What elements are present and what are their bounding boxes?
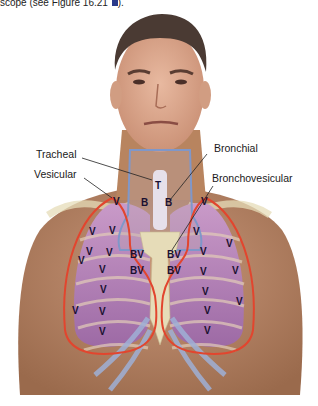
marker-vesicular: V <box>201 196 208 207</box>
label-bronchial: Bronchial <box>214 142 258 154</box>
marker-vesicular: V <box>89 226 96 237</box>
marker-vesicular: V <box>200 266 207 277</box>
marker-vesicular: V <box>113 196 120 207</box>
marker-vesicular: V <box>200 246 207 257</box>
label-tracheal: Tracheal <box>36 148 76 160</box>
marker-vesicular: V <box>193 226 200 237</box>
marker-vesicular: V <box>99 264 106 275</box>
anatomy-illustration: T B B BV BV BV BV V V V V V V V V V V V … <box>0 0 318 406</box>
marker-vesicular: V <box>100 284 107 295</box>
marker-tracheal: T <box>155 180 161 191</box>
marker-vesicular: V <box>236 296 243 307</box>
marker-bronchial-left: B <box>165 197 172 208</box>
marker-bronchial-right: B <box>141 197 148 208</box>
label-vesicular: Vesicular <box>34 168 77 180</box>
marker-bv-right-1: BV <box>130 249 144 260</box>
marker-vesicular: V <box>78 255 85 266</box>
marker-vesicular: V <box>109 225 116 236</box>
face <box>116 28 204 152</box>
marker-vesicular: V <box>232 265 239 276</box>
marker-vesicular: V <box>202 286 209 297</box>
label-bronchovesicular: Bronchovesicular <box>212 172 293 184</box>
marker-vesicular: V <box>106 247 113 258</box>
marker-bv-left-1: BV <box>167 249 181 260</box>
marker-vesicular: V <box>86 246 93 257</box>
marker-vesicular: V <box>99 306 106 317</box>
marker-bv-left-2: BV <box>167 265 181 276</box>
marker-vesicular: V <box>72 305 79 316</box>
marker-vesicular: V <box>204 325 211 336</box>
marker-vesicular: V <box>226 238 233 249</box>
marker-bv-right-2: BV <box>130 265 144 276</box>
marker-vesicular: V <box>99 326 106 337</box>
marker-vesicular: V <box>204 305 211 316</box>
